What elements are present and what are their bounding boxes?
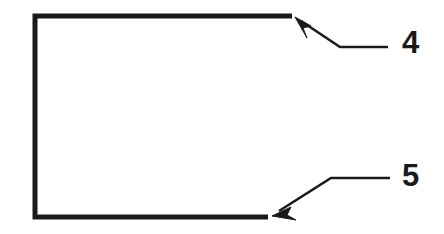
channel-profile [35,16,292,217]
callout-5-label: 5 [402,160,419,191]
callout-5-leader [272,178,390,220]
callout-4-leader-line [301,21,388,47]
profile-outline [35,16,292,217]
figure-canvas: 4 5 [0,0,444,234]
callout-4-label: 4 [402,27,419,58]
callout-4-leader [295,17,388,47]
callout-5-leader-line [279,178,390,211]
line-drawing [0,0,444,234]
